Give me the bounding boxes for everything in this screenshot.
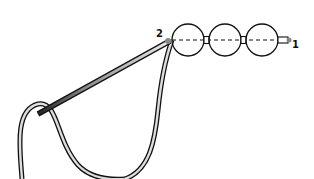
needle-exit-marker [165,38,171,44]
label-1: 1 [292,39,299,50]
thread-tail-cap [287,38,292,43]
label-2: 2 [156,28,163,39]
beading-diagram: 2 1 [0,0,314,179]
needle [38,41,170,114]
small-bead-1 [204,37,209,44]
small-bead-2 [241,37,246,44]
